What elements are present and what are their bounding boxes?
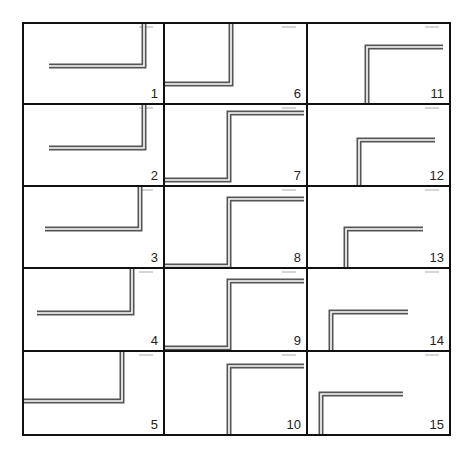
panel-10: 10 [163,350,308,436]
panel-number: 7 [294,169,301,182]
panel-number: 13 [430,251,444,264]
panel-11: 11 [306,22,451,105]
panel-2: 2 [22,103,165,187]
panel-1: 1 [22,22,165,105]
panel-7: 7 [163,103,308,187]
panel-5: 5 [22,350,165,436]
panel-12: 12 [306,103,451,187]
trace-line-icon [308,187,449,267]
panel-number: 4 [151,334,158,347]
trace-line-icon [24,352,163,434]
panel-number: 12 [430,169,444,182]
trace-line-icon [165,352,306,434]
panel-3: 3 [22,185,165,269]
trace-line-icon [24,24,163,103]
trace-line-icon [165,24,306,103]
panel-number: 15 [430,418,444,431]
panel-number: 10 [287,418,301,431]
panel-9: 9 [163,267,308,352]
trace-line-icon [308,24,449,103]
trace-line-icon [24,269,163,350]
panel-number: 14 [430,334,444,347]
panel-number: 2 [151,169,158,182]
panel-number: 3 [151,251,158,264]
trace-line-icon [308,105,449,185]
panel-number: 8 [294,251,301,264]
panel-15: 15 [306,350,451,436]
panel-8: 8 [163,185,308,269]
panel-number: 6 [294,87,301,100]
panel-grid: 123456789101112131415 [0,0,471,455]
trace-line-icon [24,187,163,267]
trace-line-icon [308,269,449,350]
panel-number: 1 [151,87,158,100]
panel-14: 14 [306,267,451,352]
panel-13: 13 [306,185,451,269]
trace-line-icon [308,352,449,434]
trace-line-icon [165,187,306,267]
panel-4: 4 [22,267,165,352]
trace-line-icon [165,269,306,350]
trace-line-icon [24,105,163,185]
panel-number: 9 [294,334,301,347]
panel-number: 5 [151,418,158,431]
panel-number: 11 [431,87,445,100]
trace-line-icon [165,105,306,185]
panel-6: 6 [163,22,308,105]
